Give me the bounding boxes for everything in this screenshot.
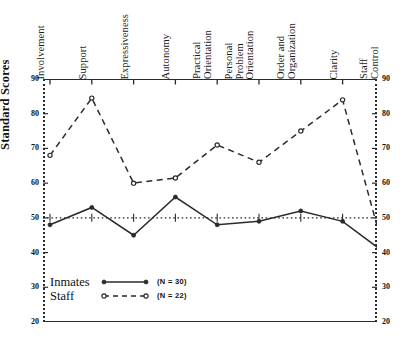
legend-sample-size: (N = 30) <box>157 275 187 289</box>
legend-label: Inmates <box>50 275 100 289</box>
category-label-line: Order and <box>276 23 287 79</box>
category-label-0: Involvement <box>36 25 47 79</box>
category-label-line: Clarity <box>328 49 339 79</box>
legend-label: Staff <box>50 289 100 303</box>
category-label-line: Control <box>370 46 381 79</box>
data-point <box>341 219 345 223</box>
data-point <box>132 181 136 185</box>
y-tick-label-right-80: 80 <box>382 110 404 118</box>
legend-line-sample <box>100 275 152 289</box>
category-label-line: Support <box>77 45 88 79</box>
y-tick-label-right-30: 30 <box>382 283 404 291</box>
chart-legend: Inmates(N = 30)Staff(N = 22) <box>50 275 187 303</box>
y-axis-title: Standard Scores <box>0 59 13 150</box>
series-staff <box>48 96 377 255</box>
data-point <box>299 209 303 213</box>
category-label-6: Order andOrganization <box>276 23 297 79</box>
data-point <box>341 98 345 102</box>
series-line-staff <box>50 98 377 252</box>
legend-sample-size: (N = 22) <box>157 289 187 303</box>
y-tick-label-left-50: 50 <box>17 214 39 222</box>
category-label-4: PracticalOrientation <box>192 30 213 79</box>
legend-item-inmates: Inmates(N = 30) <box>50 275 187 289</box>
y-tick-label-right-90: 90 <box>382 75 404 83</box>
data-point <box>90 205 94 209</box>
series-line-inmates <box>50 197 377 253</box>
category-label-2: Expressiveness <box>119 13 130 79</box>
y-tick-label-left-20: 20 <box>17 318 39 326</box>
data-point <box>173 195 177 199</box>
data-point <box>215 143 219 147</box>
y-tick-label-left-60: 60 <box>17 179 39 187</box>
chart-figure: InvolvementSupportExpressivenessAutonomy… <box>0 0 420 338</box>
category-label-8: StaffControl <box>359 46 380 79</box>
data-point <box>48 223 52 227</box>
data-point <box>48 153 52 157</box>
y-tick-label-left-80: 80 <box>17 110 39 118</box>
y-tick-label-left-70: 70 <box>17 144 39 152</box>
series-inmates <box>48 195 377 255</box>
data-point <box>90 96 94 100</box>
data-point <box>299 129 303 133</box>
category-label-line: Autonomy <box>161 33 172 79</box>
legend-item-staff: Staff(N = 22) <box>50 289 187 303</box>
legend-line-sample <box>100 289 152 303</box>
category-label-line: Personal <box>224 30 235 79</box>
category-label-line: Organization <box>286 23 297 79</box>
category-label-line: Involvement <box>36 25 47 79</box>
data-point <box>215 223 219 227</box>
category-label-line: Orientation <box>203 30 214 79</box>
category-label-5: PersonalProblemOrientation <box>224 30 256 79</box>
category-label-7: Clarity <box>328 49 339 79</box>
y-tick-label-right-40: 40 <box>382 249 404 257</box>
data-point <box>173 176 177 180</box>
y-tick-label-right-60: 60 <box>382 179 404 187</box>
y-tick-label-left-90: 90 <box>17 75 39 83</box>
y-tick-label-right-70: 70 <box>382 144 404 152</box>
category-label-1: Support <box>77 45 88 79</box>
category-label-line: Expressiveness <box>119 13 130 79</box>
y-tick-label-right-50: 50 <box>382 214 404 222</box>
category-label-3: Autonomy <box>161 33 172 79</box>
data-point <box>132 233 136 237</box>
data-point <box>257 219 261 223</box>
y-tick-label-left-30: 30 <box>17 283 39 291</box>
category-label-line: Orientation <box>245 30 256 79</box>
y-tick-label-right-20: 20 <box>382 318 404 326</box>
data-point <box>257 160 261 164</box>
y-tick-label-left-40: 40 <box>17 249 39 257</box>
category-axis-labels: InvolvementSupportExpressivenessAutonomy… <box>0 0 420 79</box>
